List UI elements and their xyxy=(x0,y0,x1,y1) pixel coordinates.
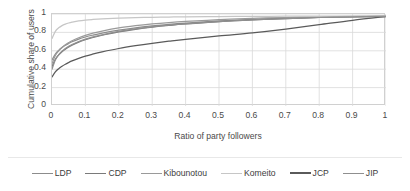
chart-legend: LDPCDPKibounotouKomeitoJCPJIP xyxy=(0,164,410,182)
x-axis-tick-label: 0.9 xyxy=(337,110,367,120)
legend-divider xyxy=(8,157,402,158)
legend-item-kibounotou[interactable]: Kibounotou xyxy=(141,168,208,178)
legend-item-label: JIP xyxy=(366,168,378,178)
legend-line-icon xyxy=(141,173,162,174)
y-axis-title-wrapper: Cumulative share of users xyxy=(0,0,16,118)
legend-item-label: JCP xyxy=(313,168,329,178)
x-axis-tick-label: 0.5 xyxy=(203,110,233,120)
legend-item-jcp[interactable]: JCP xyxy=(290,168,329,178)
x-axis-tick-label: 0.1 xyxy=(69,110,99,120)
legend-item-label: LDP xyxy=(55,168,72,178)
y-axis-tick-label: 1 xyxy=(20,8,46,17)
legend-line-icon xyxy=(290,172,311,174)
legend-item-label: Komeito xyxy=(244,168,276,178)
y-axis-tick-labels: 00.20.40.60.81 xyxy=(16,0,46,191)
legend-line-icon xyxy=(221,173,242,174)
x-axis-title: Ratio of party followers xyxy=(51,131,385,141)
x-axis-tick-label: 0.7 xyxy=(270,110,300,120)
legend-item-komeito[interactable]: Komeito xyxy=(221,168,276,178)
y-axis-tick-label: 0.2 xyxy=(20,82,46,91)
plot-area xyxy=(51,13,385,105)
legend-item-label: Kibounotou xyxy=(164,168,208,178)
legend-line-icon xyxy=(343,173,364,174)
legend-item-ldp[interactable]: LDP xyxy=(32,168,72,178)
y-axis-tick-label: 0.6 xyxy=(20,45,46,54)
x-axis-tick-label: 0.4 xyxy=(170,110,200,120)
x-axis-tick-label: 0.3 xyxy=(136,110,166,120)
legend-item-label: CDP xyxy=(108,168,126,178)
cumulative-share-chart: Cumulative share of users 00.20.40.60.81… xyxy=(0,0,410,191)
legend-item-cdp[interactable]: CDP xyxy=(85,168,126,178)
plot-svg xyxy=(52,14,386,106)
x-axis-tick-label: 0.6 xyxy=(236,110,266,120)
y-axis-tick-label: 0.4 xyxy=(20,63,46,72)
x-axis-tick-label: 0.2 xyxy=(103,110,133,120)
x-axis-tick-label: 0.8 xyxy=(303,110,333,120)
legend-line-icon xyxy=(85,173,106,174)
y-axis-tick-label: 0 xyxy=(20,100,46,109)
x-axis-tick-label: 0 xyxy=(36,110,66,120)
legend-item-jip[interactable]: JIP xyxy=(343,168,378,178)
x-axis-tick-label: 1 xyxy=(370,110,400,120)
y-axis-tick-label: 0.8 xyxy=(20,26,46,35)
legend-line-icon xyxy=(32,173,53,174)
x-axis-tick-labels: 00.10.20.30.40.50.60.70.80.91 xyxy=(0,110,410,122)
